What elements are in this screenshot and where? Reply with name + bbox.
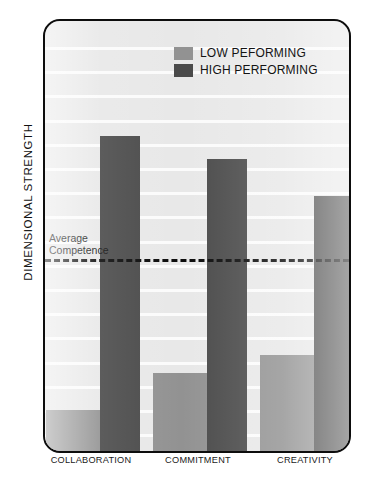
legend-label: LOW PEFORMING [200,46,306,60]
legend-swatch-icon [174,64,193,77]
x-label-collaboration: COLLABORATION [51,455,132,465]
bar-commitment-high-performing [207,159,247,451]
legend-item-low-performing: LOW PEFORMING [174,45,318,61]
legend-label: HIGH PERFORMING [200,63,318,77]
x-axis-tick-labels: COLLABORATIONCOMMITMENTCREATIVITY [43,455,351,471]
chart-legend: LOW PEFORMINGHIGH PERFORMING [174,45,318,79]
plot-panel: Average Competence LOW PEFORMINGHIGH PER… [43,19,351,453]
average-competence-label: Average Competence [49,233,109,256]
legend-swatch-icon [174,47,193,60]
average-competence-line [45,259,349,262]
bar-creativity-low-peforming [260,355,314,451]
bar-chart-figure: DIMENSIONAL STRENGTH Average Competence … [0,0,371,485]
x-label-commitment: COMMITMENT [165,455,231,465]
bar-creativity-high-performing [314,196,351,451]
bar-collaboration-high-performing [100,136,140,451]
y-axis-title: DIMENSIONAL STRENGTH [22,102,34,302]
x-label-creativity: CREATIVITY [277,455,333,465]
legend-item-high-performing: HIGH PERFORMING [174,62,318,78]
bar-commitment-low-peforming [153,373,207,451]
bar-collaboration-low-peforming [46,410,100,451]
